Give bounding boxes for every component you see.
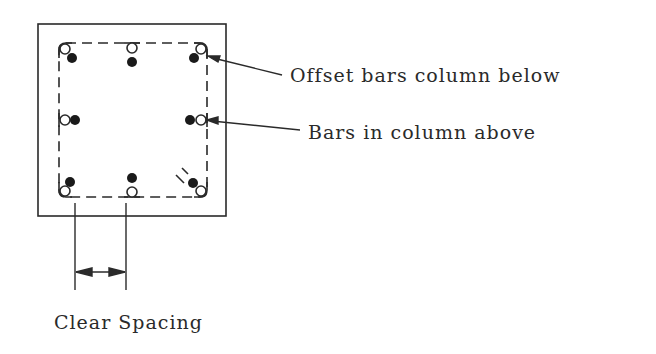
label-bars-above: Bars in column above [308,121,536,143]
leader-offset-bars [213,58,282,75]
solid-bars [65,53,199,188]
label-offset-bars: Offset bars column below [290,64,561,86]
offset-indicator-marks [176,168,188,183]
column-section-diagram [0,0,656,354]
label-clear-spacing: Clear Spacing [54,311,203,333]
